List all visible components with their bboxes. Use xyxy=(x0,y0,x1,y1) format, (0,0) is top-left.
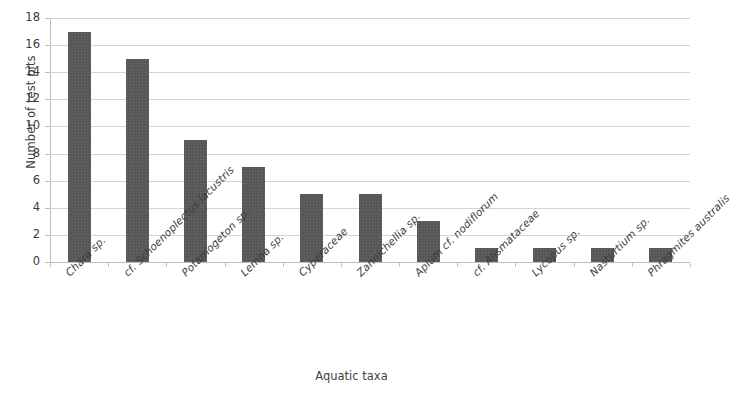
plot-area xyxy=(50,18,690,262)
x-axis-tick-mark xyxy=(690,263,691,267)
gridline xyxy=(50,18,690,19)
y-axis-tick-label: 14 xyxy=(14,66,40,78)
x-axis-tick-mark xyxy=(108,263,109,267)
bar xyxy=(126,59,149,262)
gridline xyxy=(50,45,690,46)
y-axis-tick-label: 6 xyxy=(14,175,40,187)
y-axis-tick-label: 2 xyxy=(14,229,40,241)
y-axis-tick-label: 16 xyxy=(14,39,40,51)
x-axis-tick-mark xyxy=(225,263,226,267)
y-axis-tick-label: 0 xyxy=(14,256,40,268)
bar xyxy=(68,32,91,262)
y-axis-tick-label: 12 xyxy=(14,93,40,105)
x-axis-tick-mark xyxy=(515,263,516,267)
y-axis-tick-label: 18 xyxy=(14,12,40,24)
x-axis-tick-mark xyxy=(341,263,342,267)
x-axis-tick-mark xyxy=(283,263,284,267)
x-axis-tick-mark xyxy=(457,263,458,267)
y-axis-tick-label: 10 xyxy=(14,120,40,132)
x-axis-tick-mark xyxy=(399,263,400,267)
y-axis-tick-label: 4 xyxy=(14,202,40,214)
x-axis-tick-mark xyxy=(166,263,167,267)
x-axis-tick-mark xyxy=(574,263,575,267)
x-axis-title: Aquatic taxa xyxy=(0,369,703,383)
x-axis-tick-mark xyxy=(50,263,51,267)
x-axis-tick-mark xyxy=(632,263,633,267)
y-axis-tick-label: 8 xyxy=(14,148,40,160)
